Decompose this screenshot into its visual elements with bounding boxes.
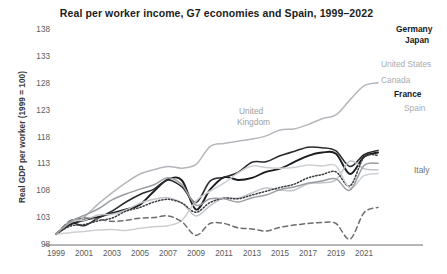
series-line-japan [56, 147, 378, 234]
series-label-germany: Germany [396, 25, 432, 35]
series-label-canada: Canada [381, 76, 410, 86]
series-label-united-kingdom-line2: Kingdom [237, 118, 270, 128]
series-line-italy [56, 207, 378, 239]
chart-canvas [0, 0, 447, 274]
chart-figure: Real per worker income, G7 economies and… [0, 0, 447, 274]
series-label-france: France [394, 90, 421, 100]
series-label-united-states: United States [381, 60, 431, 70]
series-label-united-kingdom-line1: United [239, 107, 263, 117]
plot-area [0, 0, 447, 274]
series-line-united-states [56, 83, 378, 235]
series-label-spain: Spain [404, 104, 425, 114]
series-label-japan: Japan [405, 36, 429, 46]
series-label-italy: Italy [414, 166, 429, 176]
